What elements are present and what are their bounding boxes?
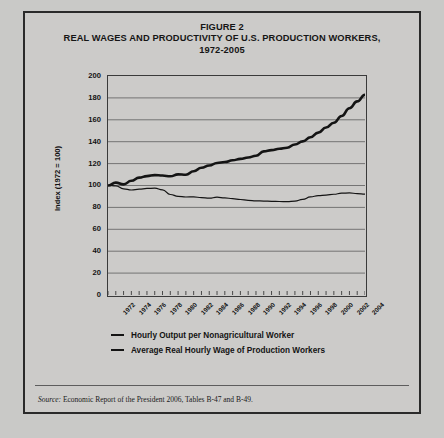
x-tick-2002: 2002 — [355, 301, 370, 316]
figure-card: FIGURE 2 REAL WAGES AND PRODUCTIVITY OF … — [23, 11, 421, 414]
y-tick-160: 160 — [75, 114, 101, 123]
y-axis-label: Index (1972 = 100) — [53, 118, 62, 238]
y-axis-ticks: 200180160140120100806040200 — [75, 56, 101, 296]
source-divider — [35, 385, 409, 386]
y-tick-40: 40 — [75, 246, 101, 255]
x-tick-2000: 2000 — [339, 301, 354, 316]
legend-label-wages: Average Real Hourly Wage of Production W… — [131, 346, 325, 355]
source-prefix: Source: — [38, 395, 61, 404]
title-line-3: 1972-2005 — [25, 45, 419, 56]
y-tick-60: 60 — [75, 224, 101, 233]
chart-lines — [108, 76, 365, 295]
legend-label-productivity: Hourly Output per Nonagricultural Worker — [131, 331, 294, 340]
legend-item-wages: Average Real Hourly Wage of Production W… — [111, 343, 419, 358]
legend-item-productivity: Hourly Output per Nonagricultural Worker — [111, 328, 419, 343]
source-note: Source: Economic Report of the President… — [38, 395, 253, 404]
x-tick-1986: 1986 — [230, 301, 245, 316]
legend-line-icon — [111, 334, 124, 336]
y-tick-20: 20 — [75, 268, 101, 277]
y-tick-0: 0 — [75, 289, 101, 298]
x-tick-1996: 1996 — [308, 301, 323, 316]
x-tick-1980: 1980 — [183, 301, 198, 316]
y-tick-120: 120 — [75, 158, 101, 167]
x-tick-1994: 1994 — [292, 301, 307, 316]
x-tick-2004: 2004 — [370, 301, 385, 316]
x-tick-1988: 1988 — [246, 301, 261, 316]
x-tick-1976: 1976 — [152, 301, 167, 316]
x-tick-1978: 1978 — [168, 301, 183, 316]
y-tick-200: 200 — [75, 70, 101, 79]
figure-title: FIGURE 2 REAL WAGES AND PRODUCTIVITY OF … — [25, 13, 419, 56]
title-line-1: FIGURE 2 — [25, 22, 419, 33]
x-tick-1998: 1998 — [324, 301, 339, 316]
x-tick-1982: 1982 — [199, 301, 214, 316]
y-tick-180: 180 — [75, 92, 101, 101]
y-tick-80: 80 — [75, 202, 101, 211]
x-tick-1990: 1990 — [261, 301, 276, 316]
y-tick-140: 140 — [75, 136, 101, 145]
x-tick-1974: 1974 — [137, 301, 152, 316]
source-text: Economic Report of the President 2006, T… — [63, 395, 253, 404]
plot-area — [107, 75, 367, 297]
legend-line-icon — [111, 349, 124, 351]
chart-legend: Hourly Output per Nonagricultural Worker… — [25, 328, 419, 358]
y-tick-100: 100 — [75, 180, 101, 189]
x-tick-1992: 1992 — [277, 301, 292, 316]
x-tick-1984: 1984 — [215, 301, 230, 316]
chart-plot-wrapper: Index (1972 = 100) 200180160140120100806… — [25, 56, 423, 324]
title-line-2: REAL WAGES AND PRODUCTIVITY OF U.S. PROD… — [25, 33, 419, 44]
x-axis-labels: 1972197419761978198019821984198619881990… — [107, 299, 369, 329]
x-tick-1972: 1972 — [121, 301, 136, 316]
